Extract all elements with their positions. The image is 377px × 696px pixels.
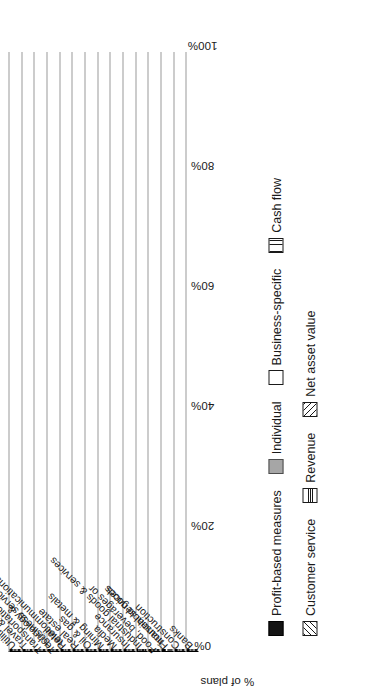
value-tick-label: 40%	[190, 400, 213, 412]
rotated-figure-frame: % of plans BanksConstructionFinancial se…	[0, 0, 377, 696]
bar-fill	[190, 649, 193, 651]
legend-item[interactable]: Profit-based measures	[268, 490, 283, 636]
legend-swatch-icon	[302, 402, 317, 417]
value-tick-label: 60%	[190, 280, 213, 292]
value-tick-label: 80%	[190, 160, 213, 172]
legend-item[interactable]: Individual	[268, 401, 283, 474]
legend-swatch-icon	[268, 459, 283, 474]
chart-page: % of plans BanksConstructionFinancial se…	[0, 0, 377, 696]
legend-swatch-icon	[268, 238, 283, 253]
legend-label: Individual	[269, 401, 283, 454]
bar	[190, 267, 193, 651]
category-axis-labels: BanksConstructionFinancial servicesFood,…	[0, 52, 190, 652]
legend-swatch-icon	[302, 621, 317, 636]
value-tick-label: 100%	[187, 40, 217, 52]
bar	[194, 465, 197, 651]
legend-item[interactable]: Net asset value	[302, 311, 317, 417]
legend-swatch-icon	[268, 370, 283, 385]
value-tick-label: 0%	[194, 640, 211, 652]
legend-label: Cash flow	[269, 178, 283, 233]
value-axis-ticks: 0%20%40%60%80%100%	[198, 52, 242, 652]
legend-label: Business-specific	[269, 269, 283, 366]
legend-label: Customer service	[303, 519, 317, 616]
legend-label: Net asset value	[303, 311, 317, 397]
value-tick-label: 20%	[190, 520, 213, 532]
legend-swatch-icon	[302, 488, 317, 503]
legend-label: Profit-based measures	[269, 490, 283, 616]
axis-title: % of plans	[200, 676, 254, 688]
legend-label: Revenue	[303, 433, 317, 483]
legend-swatch-icon	[268, 621, 283, 636]
legend-item[interactable]: Customer service	[302, 519, 317, 636]
legend-item[interactable]: Business-specific	[268, 269, 283, 386]
figure: % of plans BanksConstructionFinancial se…	[0, 0, 377, 696]
legend-row: Customer serviceRevenueNet asset value	[302, 295, 317, 636]
legend-item[interactable]: Revenue	[302, 433, 317, 503]
legend-item[interactable]: Cash flow	[268, 178, 283, 253]
chart-legend: Profit-based measuresIndividualBusiness-…	[268, 56, 368, 636]
legend-row: Profit-based measuresIndividualBusiness-…	[268, 162, 283, 636]
